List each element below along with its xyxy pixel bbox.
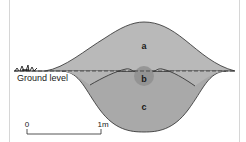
scale-bar-line [27,129,101,134]
mound-region-a [45,22,235,71]
label-b: b [141,74,147,84]
scale-bar: 0 1m [25,120,109,134]
scale-end-label: 1m [97,120,108,129]
scale-start-label: 0 [25,120,30,129]
ground-level-label: Ground level [17,73,68,83]
mound-cross-section-diagram: a b c Ground level 0 1m [0,0,246,142]
grass-tuft-icon [15,65,37,71]
label-c: c [141,102,146,112]
